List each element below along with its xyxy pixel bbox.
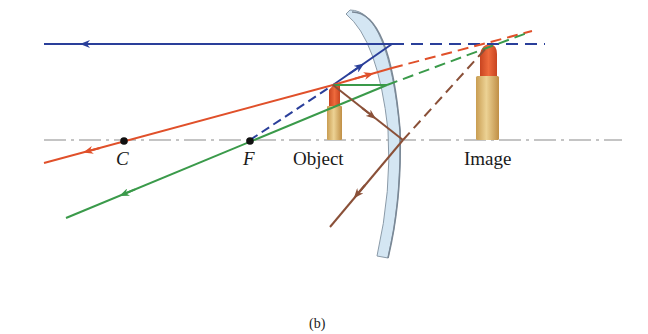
ray-red xyxy=(44,31,532,163)
label-c: C xyxy=(116,148,129,170)
figure-caption: (b) xyxy=(309,316,325,332)
object-lipstick xyxy=(327,85,342,140)
convex-mirror xyxy=(346,10,400,258)
point-f xyxy=(246,137,254,145)
label-image: Image xyxy=(464,148,511,170)
ray-green xyxy=(66,33,527,218)
ray-blue xyxy=(44,44,545,140)
label-object: Object xyxy=(293,148,344,170)
label-f: F xyxy=(243,148,255,170)
image-lipstick xyxy=(476,44,499,140)
point-c xyxy=(120,137,128,145)
optics-diagram: C F Object Image (b) xyxy=(0,0,648,334)
ray-brown xyxy=(330,46,488,227)
